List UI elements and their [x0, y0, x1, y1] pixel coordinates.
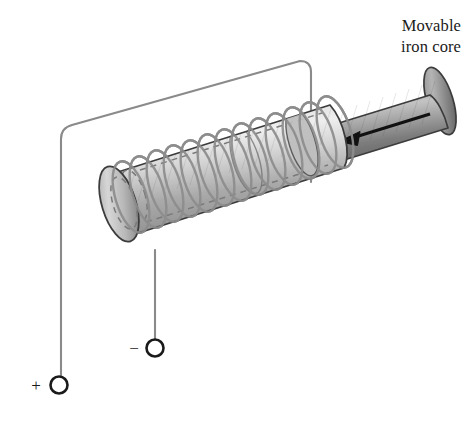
positive-lead-wire: [61, 61, 311, 377]
positive-sign: +: [31, 376, 41, 395]
solenoid-diagram: + − Movable iron core: [0, 0, 471, 434]
negative-sign: −: [129, 339, 139, 358]
wire-leads: [61, 61, 311, 377]
positive-terminal[interactable]: [51, 377, 68, 394]
core-label-line2: iron core: [401, 37, 461, 56]
core-label-line1: Movable: [402, 16, 461, 35]
diagram-canvas: + − Movable iron core: [0, 0, 471, 434]
terminals: + −: [31, 339, 163, 395]
core-label: Movable iron core: [401, 16, 461, 56]
negative-terminal[interactable]: [147, 340, 164, 357]
